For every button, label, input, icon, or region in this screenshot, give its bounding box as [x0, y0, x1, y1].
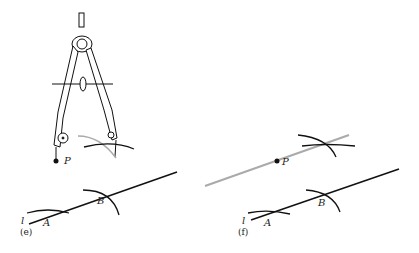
compass-icon [52, 13, 117, 160]
label-p-f: P [282, 157, 289, 167]
arc-tip [84, 144, 134, 149]
point-p-marker [275, 159, 280, 164]
point-p-marker [54, 159, 59, 164]
label-l-e: l [21, 216, 24, 226]
caption-f: (f) [238, 228, 248, 237]
label-a-f: A [264, 218, 271, 228]
label-b-e: B [97, 196, 104, 206]
label-b-f: B [318, 198, 325, 208]
label-p-e: P [64, 156, 71, 166]
arc-construction [78, 136, 116, 158]
panel-e [27, 13, 177, 224]
diagram-canvas [0, 0, 419, 253]
label-l-f: l [242, 216, 245, 226]
caption-e: (e) [20, 228, 32, 237]
panel-f [205, 135, 399, 220]
label-a-e: A [43, 218, 50, 228]
